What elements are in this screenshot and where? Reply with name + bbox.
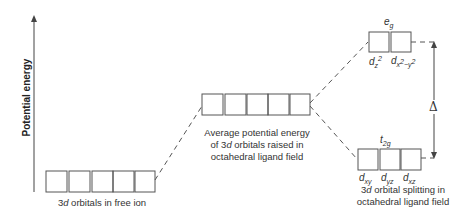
y-axis-label: Potential energy: [21, 58, 32, 138]
free-ion-orbital-boxes: [46, 171, 155, 192]
orbital-label-dxy: dxy: [359, 172, 372, 185]
orbital-label-dyz: dyz: [381, 172, 394, 185]
orbital-label-dxz: dxz: [403, 172, 416, 185]
delta-symbol: Δ: [429, 100, 438, 114]
average-level-label: Average potential energy of 3d orbitals …: [196, 127, 318, 163]
splitting-label: 3d orbital splitting in octahedral ligan…: [345, 184, 461, 208]
t2g-group-label: t2g: [380, 134, 391, 147]
orbital-label-dx2-y2: dx2−y2: [391, 55, 415, 68]
t2g-orbital-boxes: [358, 149, 421, 170]
average-orbital-boxes: [202, 94, 310, 115]
eg-group-label: eg: [384, 16, 393, 29]
orbital-label-dz2: dz2: [369, 55, 382, 69]
eg-orbital-boxes: [369, 32, 411, 52]
free-ion-label: 3d orbitals in free ion: [40, 197, 164, 209]
